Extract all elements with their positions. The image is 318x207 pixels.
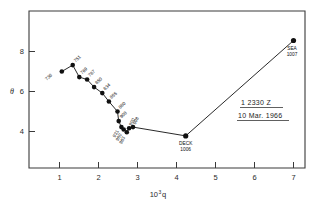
figure-container: 1 2 3 4 5 6 7 4 6 8 θ 10 3 q bbox=[0, 0, 318, 207]
sea-label-name: SEA bbox=[287, 46, 297, 51]
data-point-736 bbox=[60, 69, 65, 74]
y-tick-label-8: 8 bbox=[20, 47, 24, 56]
x-axis-ticks bbox=[60, 162, 294, 168]
data-point-880 bbox=[115, 109, 120, 114]
annotation-time: 1 2330 Z bbox=[241, 99, 271, 106]
x-tick-label-2: 2 bbox=[96, 173, 100, 182]
x-tick-label-1: 1 bbox=[57, 173, 61, 182]
sea-label-value: 1007 bbox=[287, 52, 298, 57]
x-axis-title-base: 10 bbox=[150, 190, 158, 199]
data-markers bbox=[60, 38, 297, 139]
y-tick-label-6: 6 bbox=[20, 87, 24, 96]
data-point-769 bbox=[77, 75, 82, 80]
point-label-751: 751 bbox=[73, 54, 82, 63]
x-tick-label-7: 7 bbox=[291, 173, 295, 182]
point-label-736: 736 bbox=[44, 72, 53, 81]
x-tick-label-4: 4 bbox=[174, 173, 178, 182]
annotation-block: 1 2330 Z 10 Mar. 1966 bbox=[237, 99, 289, 121]
data-point-855 bbox=[107, 99, 112, 104]
annotation-date: 10 Mar. 1966 bbox=[238, 112, 282, 119]
profile-line bbox=[62, 41, 294, 136]
data-point-751 bbox=[70, 63, 75, 68]
point-label-834: 834 bbox=[102, 82, 111, 91]
plot-frame bbox=[29, 11, 305, 168]
y-axis-title: θ bbox=[10, 87, 14, 96]
x-tick-label-5: 5 bbox=[213, 173, 217, 182]
endpoint-labels: DECK 1006 SEA 1007 bbox=[179, 46, 298, 153]
data-point-908 bbox=[116, 119, 121, 124]
frame-border bbox=[29, 11, 305, 168]
x-tick-label-6: 6 bbox=[252, 173, 256, 182]
data-point-834 bbox=[100, 91, 105, 96]
deck-label-name: DECK bbox=[179, 141, 193, 146]
x-tick-label-3: 3 bbox=[135, 173, 139, 182]
point-label-908: 908 bbox=[119, 110, 128, 119]
x-axis-title: 10 3 q bbox=[150, 189, 167, 200]
scatter-line-chart: 1 2 3 4 5 6 7 4 6 8 θ 10 3 q bbox=[0, 0, 318, 207]
x-axis-title-variable: q bbox=[162, 190, 166, 199]
data-point-deck-1006 bbox=[183, 133, 188, 138]
data-point-983 bbox=[125, 130, 130, 135]
data-point-900 bbox=[127, 126, 132, 131]
point-label-850: 850 bbox=[94, 76, 103, 85]
data-point-850 bbox=[92, 85, 97, 90]
point-label-998: 998 bbox=[132, 116, 140, 126]
point-label-855: 855 bbox=[109, 91, 118, 100]
point-label-880: 880 bbox=[118, 101, 127, 110]
x-axis-tick-labels: 1 2 3 4 5 6 7 bbox=[57, 173, 295, 182]
series-polyline bbox=[62, 41, 294, 136]
data-point-sea-1007 bbox=[291, 38, 296, 43]
y-tick-label-4: 4 bbox=[20, 127, 24, 136]
y-axis-tick-labels: 4 6 8 bbox=[20, 47, 24, 136]
y-axis-ticks bbox=[29, 52, 35, 132]
y-axis-title-text: θ bbox=[10, 87, 14, 96]
deck-label-value: 1006 bbox=[180, 147, 191, 152]
point-label-787: 787 bbox=[87, 69, 96, 78]
data-point-787 bbox=[85, 77, 90, 82]
